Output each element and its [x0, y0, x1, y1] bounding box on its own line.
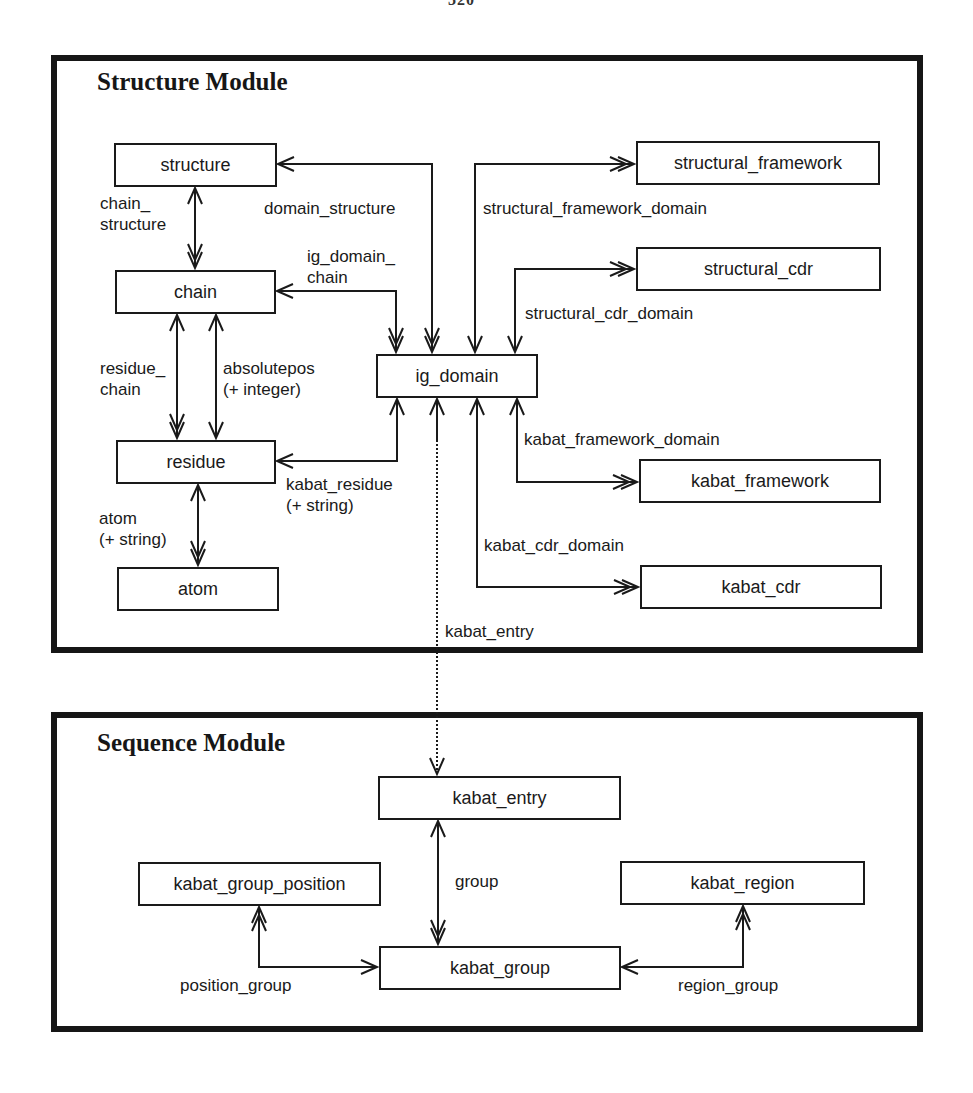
rel-absolutepos-line1: absolutepos [223, 358, 315, 379]
rel-residue-chain-line1: residue_ [100, 358, 165, 379]
rel-structural-framework-domain: structural_framework_domain [483, 198, 707, 219]
rel-chain-structure-line1: chain_ [100, 193, 166, 214]
rel-residue-chain-line2: chain [100, 379, 165, 400]
entity-structural-framework[interactable]: structural_framework [636, 141, 880, 185]
entity-kabat-region[interactable]: kabat_region [620, 861, 865, 905]
rel-kabat-residue-line1: kabat_residue [286, 474, 393, 495]
rel-absolutepos-line2: (+ integer) [223, 379, 315, 400]
rel-ig-domain-chain-line1: ig_domain_ [307, 246, 395, 267]
rel-chain-structure: chain_ structure [100, 193, 166, 235]
entity-structure[interactable]: structure [114, 143, 277, 187]
entity-residue[interactable]: residue [116, 440, 276, 484]
rel-position-group: position_group [180, 975, 292, 996]
rel-kabat-residue: kabat_residue (+ string) [286, 474, 393, 516]
rel-group: group [455, 871, 498, 892]
rel-kabat-cdr-domain: kabat_cdr_domain [484, 535, 624, 556]
entity-kabat-group-position[interactable]: kabat_group_position [138, 862, 381, 906]
entity-kabat-group[interactable]: kabat_group [379, 946, 621, 990]
rel-atom-line2: (+ string) [99, 529, 167, 550]
rel-ig-domain-chain: ig_domain_ chain [307, 246, 395, 288]
rel-chain-structure-line2: structure [100, 214, 166, 235]
rel-kabat-entry: kabat_entry [445, 621, 534, 642]
entity-kabat-entry[interactable]: kabat_entry [378, 776, 621, 820]
entity-atom[interactable]: atom [117, 567, 279, 611]
rel-atom-line1: atom [99, 508, 167, 529]
rel-atom: atom (+ string) [99, 508, 167, 550]
entity-ig-domain[interactable]: ig_domain [376, 354, 538, 398]
rel-ig-domain-chain-line2: chain [307, 267, 395, 288]
rel-absolutepos: absolutepos (+ integer) [223, 358, 315, 400]
rel-structural-cdr-domain: structural_cdr_domain [525, 303, 693, 324]
entity-kabat-cdr[interactable]: kabat_cdr [640, 565, 882, 609]
rel-kabat-residue-line2: (+ string) [286, 495, 393, 516]
entity-chain[interactable]: chain [115, 270, 276, 314]
rel-region-group: region_group [678, 975, 778, 996]
rel-domain-structure: domain_structure [264, 198, 395, 219]
rel-kabat-framework-domain: kabat_framework_domain [524, 429, 720, 450]
entity-structural-cdr[interactable]: structural_cdr [636, 247, 881, 291]
rel-residue-chain: residue_ chain [100, 358, 165, 400]
entity-kabat-framework[interactable]: kabat_framework [639, 459, 881, 503]
